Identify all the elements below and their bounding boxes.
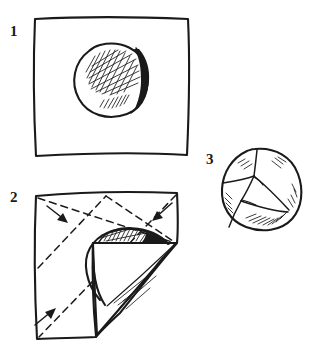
folded-corner-flap	[93, 243, 176, 336]
step-number-1: 1	[10, 24, 18, 39]
step-number-3: 3	[206, 152, 214, 167]
step-2-group	[35, 192, 178, 339]
step-number-2: 2	[10, 190, 18, 205]
figure-root: 1 2 3	[0, 0, 318, 355]
wrapped-bundle-outline	[222, 149, 301, 231]
step-3-group	[222, 149, 301, 231]
figure-illustration	[0, 0, 318, 355]
step-1-group	[34, 17, 189, 156]
